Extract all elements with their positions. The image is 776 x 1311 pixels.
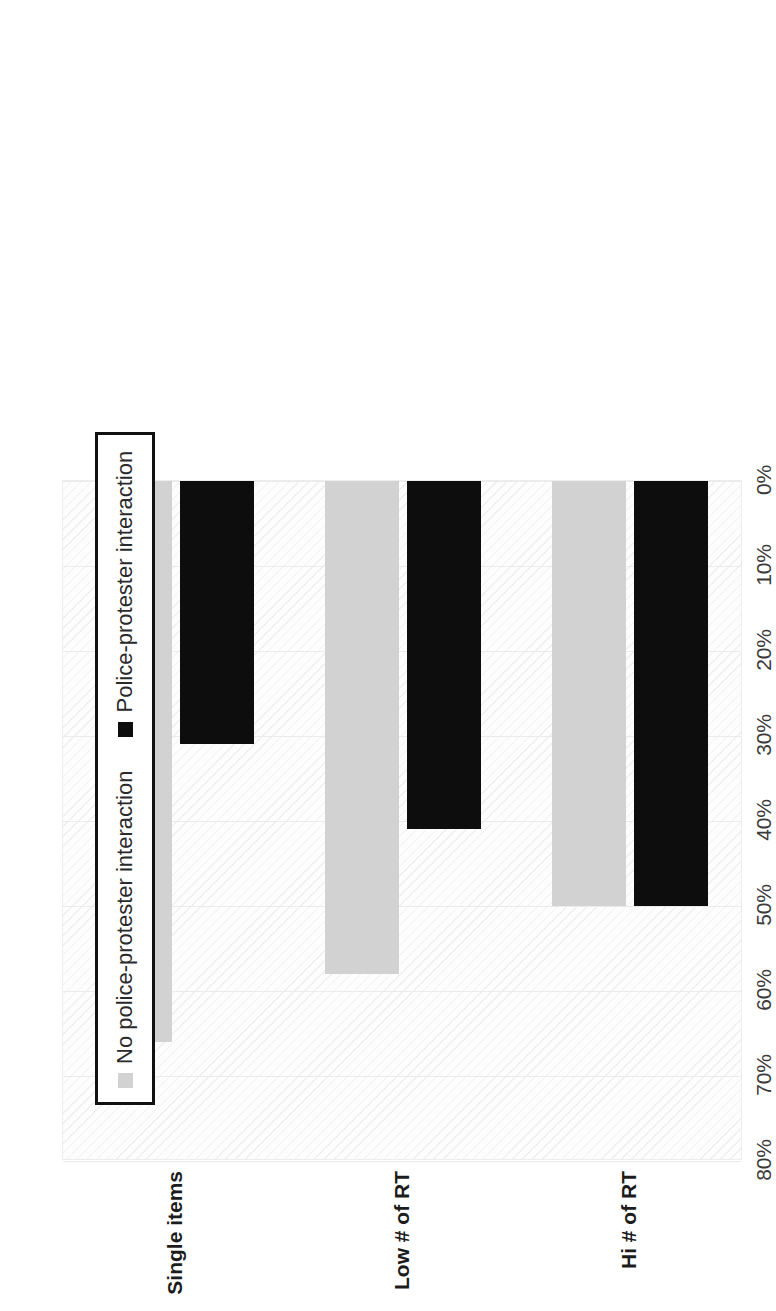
axis-tick-0%: 0% bbox=[752, 465, 776, 495]
category-axis-labels: Single itemsLow # of RTHi # of RT bbox=[62, 1163, 742, 1311]
bar-low-of-rt-series-2 bbox=[407, 481, 481, 830]
chart-legend: No police-protester interactionPolice-pr… bbox=[95, 432, 155, 1105]
category-label-low-of-rt: Low # of RT bbox=[390, 1171, 414, 1290]
value-axis-tick-labels: 0%10%20%30%40%50%60%70%80% bbox=[752, 480, 762, 1160]
gridline-80% bbox=[63, 1161, 741, 1162]
gridline-70% bbox=[63, 1076, 741, 1077]
category-label-hi-of-rt: Hi # of RT bbox=[617, 1171, 641, 1269]
legend-item-2[interactable]: Police-protester interaction bbox=[112, 451, 138, 737]
bar-hi-of-rt-series-1 bbox=[552, 481, 626, 906]
legend-label-1: No police-protester interaction bbox=[112, 771, 138, 1064]
legend-label-2: Police-protester interaction bbox=[112, 451, 138, 713]
legend-swatch-icon-2 bbox=[118, 722, 133, 737]
bar-single-items-series-2 bbox=[180, 481, 254, 745]
axis-tick-50%: 50% bbox=[752, 884, 776, 925]
plot-area bbox=[62, 480, 742, 1160]
legend-swatch-icon-1 bbox=[118, 1073, 133, 1088]
axis-tick-70%: 70% bbox=[752, 1054, 776, 1095]
category-label-single-items: Single items bbox=[163, 1171, 187, 1295]
bar-low-of-rt-series-1 bbox=[325, 481, 399, 974]
axis-tick-40%: 40% bbox=[752, 799, 776, 840]
axis-tick-10%: 10% bbox=[752, 544, 776, 585]
axis-tick-20%: 20% bbox=[752, 629, 776, 670]
axis-tick-80%: 80% bbox=[752, 1139, 776, 1180]
legend-item-1[interactable]: No police-protester interaction bbox=[112, 771, 138, 1088]
axis-tick-60%: 60% bbox=[752, 969, 776, 1010]
axis-tick-30%: 30% bbox=[752, 714, 776, 755]
bar-hi-of-rt-series-2 bbox=[634, 481, 708, 906]
